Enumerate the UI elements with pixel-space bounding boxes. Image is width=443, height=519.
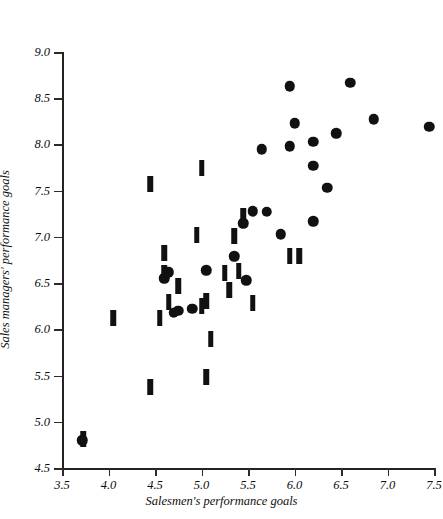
data-point-circle: [308, 216, 319, 227]
data-point-circle: [308, 136, 319, 147]
data-point-circle: [241, 275, 252, 286]
x-axis-tick-label: 7.5: [426, 478, 442, 493]
data-point-bar: [227, 282, 233, 298]
data-point-bar: [81, 431, 87, 447]
data-point-circle: [308, 160, 319, 171]
x-axis-tick: [109, 468, 111, 476]
y-axis-tick-label: 5.5: [34, 368, 50, 383]
y-axis-tick-label: 5.0: [34, 414, 50, 429]
data-point-bar: [199, 298, 205, 314]
data-point-bar: [148, 176, 154, 192]
x-axis-tick: [62, 468, 64, 476]
data-point-bar: [162, 245, 168, 261]
x-axis-tick-label: 3.5: [54, 478, 70, 493]
data-point-bar: [287, 248, 293, 264]
data-point-circle: [289, 118, 300, 129]
data-point-bar: [241, 208, 247, 224]
y-axis-tick: [54, 468, 62, 470]
y-axis-tick: [54, 237, 62, 239]
data-point-circle: [247, 206, 258, 217]
x-axis-tick: [341, 468, 343, 476]
data-point-circle: [187, 304, 198, 315]
y-axis-tick: [54, 422, 62, 424]
data-point-bar: [203, 369, 209, 385]
data-point-circle: [368, 114, 379, 125]
data-point-bar: [250, 295, 256, 311]
y-axis-tick-label: 8.0: [34, 137, 50, 152]
plot-area: 4.55.05.56.06.57.07.58.08.59.03.54.04.55…: [62, 52, 434, 468]
y-axis-tick-label: 7.5: [34, 183, 50, 198]
x-axis-tick: [248, 468, 250, 476]
data-point-circle: [424, 122, 435, 133]
y-axis-tick-label: 7.0: [34, 229, 50, 244]
data-point-bar: [176, 278, 182, 294]
y-axis-tick: [54, 52, 62, 54]
x-axis-tick: [388, 468, 390, 476]
y-axis-title: Sales managers' performance goals: [0, 0, 20, 519]
data-point-circle: [229, 251, 240, 262]
x-axis-tick: [434, 468, 436, 476]
top-clipped-text: · · · · · ·: [0, 0, 443, 9]
y-axis-tick-label: 6.0: [34, 322, 50, 337]
data-point-bar: [199, 160, 205, 176]
data-point-circle: [261, 207, 272, 218]
data-point-bar: [296, 248, 302, 264]
y-axis-tick: [54, 376, 62, 378]
data-point-bar: [157, 310, 163, 326]
y-axis-tick: [54, 144, 62, 146]
data-point-circle: [257, 144, 268, 155]
x-axis-tick-label: 4.5: [147, 478, 163, 493]
data-point-circle: [275, 229, 286, 240]
x-axis-tick-label: 5.0: [194, 478, 210, 493]
data-point-circle: [322, 183, 333, 194]
data-point-bar: [166, 294, 172, 310]
y-axis-tick: [54, 191, 62, 193]
data-point-circle: [285, 141, 296, 152]
y-axis-tick: [54, 283, 62, 285]
data-point-bar: [148, 379, 154, 395]
data-point-circle: [285, 81, 296, 92]
data-point-bar: [194, 227, 200, 243]
y-axis-tick-label: 6.5: [34, 276, 50, 291]
x-axis-tick: [155, 468, 157, 476]
data-point-bar: [236, 263, 242, 279]
data-point-circle: [331, 128, 342, 139]
data-point-bar: [208, 331, 214, 347]
y-axis-tick-label: 8.5: [34, 91, 50, 106]
x-axis-tick-label: 4.0: [101, 478, 117, 493]
x-axis-tick: [295, 468, 297, 476]
y-axis-tick: [54, 329, 62, 331]
x-axis-tick: [202, 468, 204, 476]
data-point-circle: [345, 77, 356, 88]
y-axis-tick-label: 9.0: [34, 45, 50, 60]
data-point-bar: [162, 265, 168, 281]
data-point-bar: [222, 265, 228, 281]
data-point-circle: [201, 265, 212, 276]
x-axis-tick-label: 6.0: [287, 478, 303, 493]
data-point-bar: [110, 310, 116, 326]
x-axis-tick-label: 5.5: [240, 478, 256, 493]
data-point-bar: [231, 228, 237, 244]
x-axis-tick-label: 6.5: [333, 478, 349, 493]
scatter-plot-figure: · · · · · · 4.55.05.56.06.57.07.58.08.59…: [0, 0, 443, 519]
x-axis-tick-label: 7.0: [380, 478, 396, 493]
x-axis-title: Salesmen's performance goals: [0, 494, 443, 509]
y-axis-tick: [54, 98, 62, 100]
y-axis-tick-label: 4.5: [34, 461, 50, 476]
